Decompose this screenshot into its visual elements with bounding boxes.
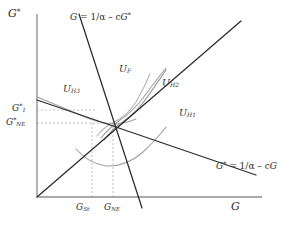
- line-45-degree: [37, 21, 241, 197]
- equation-top: G = 1/α – cG*: [70, 12, 131, 22]
- diagram-svg: [0, 0, 300, 231]
- curve-label-uf: UF: [119, 64, 131, 75]
- curve-label-uh1: UH1: [179, 108, 196, 119]
- y-tick-label-g1: G*1: [12, 103, 26, 114]
- x-tick-label-gst: GSt: [76, 203, 89, 213]
- curve-uh1: [76, 127, 166, 166]
- guide-lines: [37, 110, 113, 197]
- curve-uh3: [37, 97, 136, 124]
- curve-uf: [97, 74, 150, 136]
- equation-right: G* = 1/α – cG: [216, 161, 277, 171]
- curve-label-uh2: UH2: [162, 78, 179, 89]
- line-g-equals: [79, 14, 142, 208]
- y-axis-label: G*: [8, 8, 21, 19]
- figure-canvas: G* G G = 1/α – cG* G* = 1/α – cG UF UH2 …: [0, 0, 300, 231]
- curve-uh2: [101, 68, 166, 138]
- reaction-lines: [37, 14, 256, 208]
- x-axis-label: G: [231, 201, 240, 212]
- curve-label-uh3: UH3: [63, 84, 80, 95]
- y-tick-label-gne: G*NE: [6, 117, 25, 128]
- x-tick-label-gne: GNE: [104, 203, 120, 213]
